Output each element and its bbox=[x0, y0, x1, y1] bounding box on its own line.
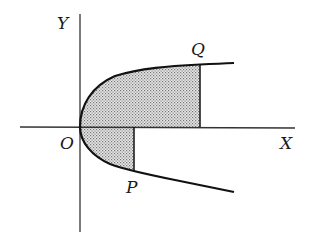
origin-label: O bbox=[60, 133, 74, 153]
shaded-region-upper bbox=[80, 65, 200, 128]
x-axis bbox=[20, 127, 295, 128]
y-axis-label: Y bbox=[57, 13, 70, 33]
parabola-diagram: Y X O Q P bbox=[0, 0, 311, 245]
point-q-label: Q bbox=[191, 39, 205, 59]
point-p-label: P bbox=[125, 177, 138, 197]
x-axis-label: X bbox=[278, 133, 293, 153]
